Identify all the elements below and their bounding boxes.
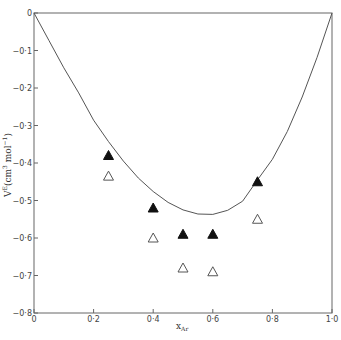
filled-triangle-marker [104, 151, 114, 160]
y-tick-label: −0·8 [13, 309, 32, 318]
y-tick-label: −0·7 [13, 272, 32, 281]
y-tick-label: −0·3 [13, 122, 32, 131]
filled-triangle-marker [148, 203, 158, 212]
x-tick-label: 0 [31, 315, 36, 324]
open-triangle-marker [178, 263, 188, 272]
open-triangle-marker [148, 233, 158, 242]
filled-triangle-marker [208, 229, 218, 238]
open-triangle-series [104, 171, 263, 276]
x-tick-label: 0·2 [87, 315, 100, 324]
fit-curve [34, 13, 332, 214]
y-tick-label: −0·6 [13, 234, 32, 243]
filled-triangle-marker [253, 177, 263, 186]
y-tick-label: −0·2 [13, 84, 32, 93]
y-axis-label: VE(cm3 mol−1) [1, 133, 13, 198]
y-tick-label: 0 [27, 9, 32, 18]
open-triangle-marker [253, 214, 263, 223]
open-triangle-marker [104, 171, 114, 180]
y-tick-label: −0·1 [13, 47, 32, 56]
x-tick-label: 0·4 [147, 315, 160, 324]
x-tick-label: 1·0 [326, 315, 339, 324]
x-tick-label: 0·8 [266, 315, 279, 324]
x-axis-ticks: 00·20·40·60·81·0 [31, 309, 338, 324]
x-tick-label: 0·6 [206, 315, 219, 324]
y-tick-label: −0·5 [13, 197, 32, 206]
y-tick-label: −0·4 [13, 159, 32, 168]
open-triangle-marker [208, 267, 218, 276]
x-axis-label: xAr [176, 321, 188, 332]
filled-triangle-marker [178, 229, 188, 238]
filled-triangle-series [104, 151, 263, 239]
chart-canvas: 0−0·1−0·2−0·3−0·4−0·5−0·6−0·7−0·8 00·20·… [0, 0, 341, 340]
